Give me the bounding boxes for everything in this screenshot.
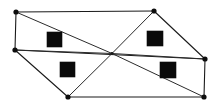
geometric-graph-svg xyxy=(0,0,219,110)
center-hub[interactable] xyxy=(111,52,114,55)
vertex-bottom-left[interactable] xyxy=(65,94,70,99)
square-lower-left[interactable] xyxy=(60,62,75,77)
center-hub-group xyxy=(111,52,114,55)
vertex-right[interactable] xyxy=(202,56,207,61)
figure-container xyxy=(0,0,219,110)
vertex-top-left[interactable] xyxy=(13,9,18,14)
square-lower-right[interactable] xyxy=(160,62,176,78)
square-upper-right[interactable] xyxy=(147,31,163,46)
square-upper-left[interactable] xyxy=(47,32,62,47)
vertex-top-right[interactable] xyxy=(151,8,156,13)
vertex-bottom-right[interactable] xyxy=(201,94,206,99)
vertex-left[interactable] xyxy=(12,47,17,52)
